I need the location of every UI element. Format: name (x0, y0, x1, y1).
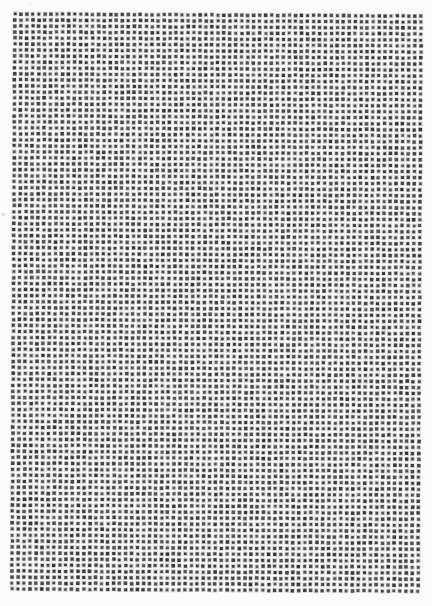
dot-grid-canvas (0, 0, 432, 606)
scanned-dot-grid-sheet (0, 0, 432, 606)
